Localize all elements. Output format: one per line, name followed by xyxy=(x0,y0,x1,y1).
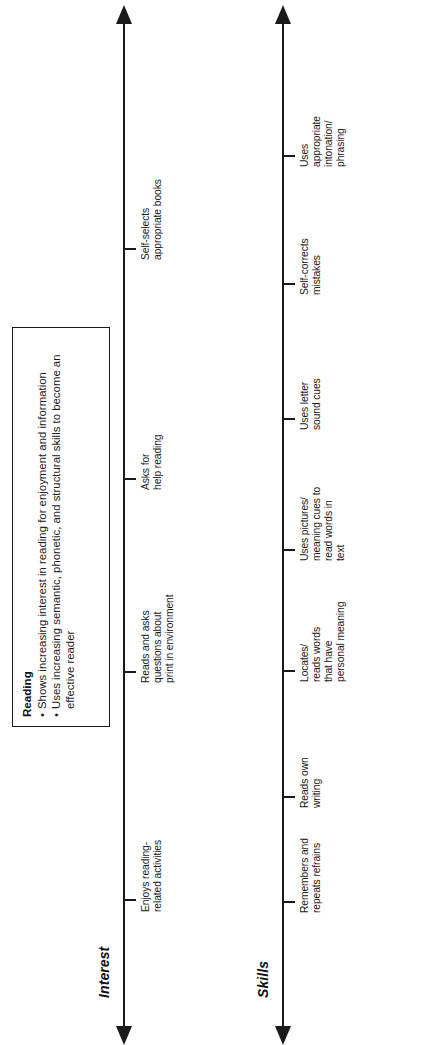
axis-tick-label: Reads own writing xyxy=(299,678,323,808)
axis-tick-label: Asks for help reading xyxy=(140,350,164,490)
axis-tick xyxy=(123,671,136,673)
axis-tick-label: Enjoys reading- related activities xyxy=(140,772,164,912)
axis-skills: Skills Remembers and repeats refrains Re… xyxy=(230,0,427,1045)
diagram-canvas: Reading • Shows increasing interest in r… xyxy=(0,0,427,1045)
axis-tick-label: Reads and asks questions about print in … xyxy=(140,533,176,683)
axis-line-skills xyxy=(282,24,284,1029)
axis-tick xyxy=(282,418,295,420)
axis-tick-label: Uses letter sound cues xyxy=(299,300,323,430)
axis-title-interest: Interest xyxy=(96,947,112,998)
axis-tick xyxy=(282,901,295,903)
rotated-diagram-stage: Reading • Shows increasing interest in r… xyxy=(0,0,427,1045)
axis-tick xyxy=(123,248,136,250)
axis-tick xyxy=(282,549,295,551)
axis-interest: Interest Enjoys reading- related activit… xyxy=(0,0,190,1045)
axis-arrow-end-icon xyxy=(275,5,291,24)
axis-tick-label: Locates/ reads words that have personal … xyxy=(299,552,347,682)
axis-tick xyxy=(123,478,136,480)
axis-tick xyxy=(282,155,295,157)
axis-tick xyxy=(282,670,295,672)
axis-tick xyxy=(123,899,136,901)
axis-tick-label: Self-selects appropriate books xyxy=(140,110,164,260)
axis-arrow-start-icon xyxy=(275,1026,291,1045)
axis-arrow-start-icon xyxy=(116,1026,132,1045)
axis-tick xyxy=(282,283,295,285)
axis-arrow-end-icon xyxy=(116,5,132,24)
axis-tick-label: Uses appropriate intonation/ phrasing xyxy=(299,37,347,167)
axis-title-skills: Skills xyxy=(255,961,271,998)
axis-tick xyxy=(282,796,295,798)
axis-tick-label: Self-corrects mistakes xyxy=(299,165,323,295)
axis-line-interest xyxy=(123,24,125,1029)
axis-tick-label: Uses pictures/ meaning cues to read word… xyxy=(299,431,347,561)
